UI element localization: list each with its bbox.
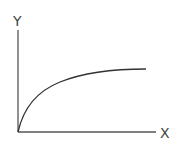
- diagram-canvas: Y X: [0, 0, 178, 150]
- saturation-curve: [18, 69, 146, 132]
- y-axis-label: Y: [12, 13, 22, 29]
- x-axis-label: X: [160, 125, 170, 141]
